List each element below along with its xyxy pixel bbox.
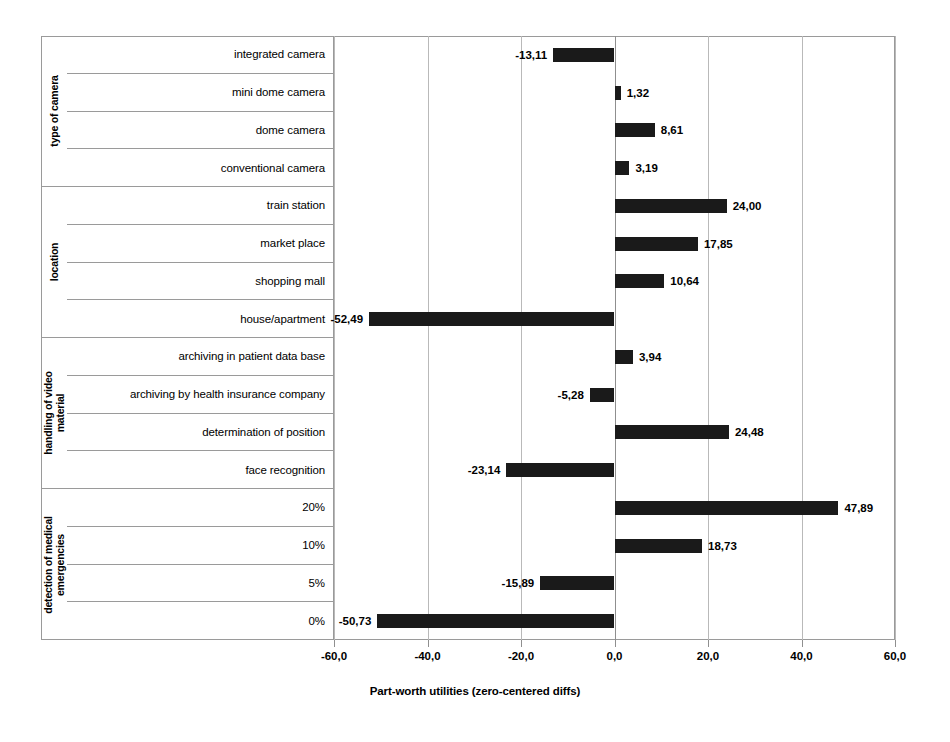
- category-level-list: integrated cameramini dome cameradome ca…: [67, 36, 333, 186]
- x-axis-tick: [428, 640, 429, 647]
- category-level-row: train station: [67, 187, 333, 225]
- category-group-title-line: material: [54, 371, 66, 455]
- category-level-list: train stationmarket placeshopping mallho…: [67, 187, 333, 337]
- bar: [615, 199, 727, 213]
- bar-value-label: -50,73: [339, 615, 372, 627]
- bar: [615, 350, 633, 364]
- bar: [615, 86, 621, 100]
- category-level-row: conventional camera: [67, 149, 333, 187]
- category-level-label: house/apartment: [240, 313, 325, 325]
- x-axis-title: Part-worth utilities (zero-centered diff…: [0, 685, 950, 697]
- category-group-title-line: emergencies: [54, 516, 66, 614]
- category-level-row: house/apartment: [67, 300, 333, 338]
- category-level-label: 20%: [302, 501, 325, 513]
- bar: [615, 161, 630, 175]
- bar-value-label: 8,61: [661, 124, 683, 136]
- bar-value-label: -5,28: [558, 389, 584, 401]
- bar: [506, 463, 614, 477]
- category-level-label: 5%: [309, 577, 325, 589]
- category-level-list: archiving in patient data basearchiving …: [67, 338, 333, 488]
- bar-row: 24,48: [334, 414, 895, 452]
- bar-value-label: -13,11: [515, 49, 547, 61]
- x-axis-tick-label: 40,0: [790, 650, 812, 662]
- bar: [615, 237, 698, 251]
- bar-row: 18,73: [334, 527, 895, 565]
- x-axis-tick-label: -60,0: [321, 650, 347, 662]
- bar-value-label: 18,73: [708, 540, 737, 552]
- bar-row: -50,73: [334, 602, 895, 640]
- bar: [615, 539, 703, 553]
- bar-value-label: -15,89: [502, 577, 535, 589]
- bar-row: 1,32: [334, 74, 895, 112]
- bar-row: -5,28: [334, 376, 895, 414]
- category-group-title: type of camera: [41, 36, 67, 186]
- bar-value-label: 17,85: [704, 238, 733, 250]
- category-level-row: 5%: [67, 565, 333, 603]
- category-group: locationtrain stationmarket placeshoppin…: [41, 187, 333, 338]
- bar-row: 3,19: [334, 149, 895, 187]
- category-group-title-line: handling of video: [42, 371, 54, 455]
- category-level-label: determination of position: [202, 426, 325, 438]
- category-group-title: detection of medicalemergencies: [41, 489, 67, 640]
- x-axis-tick-label: -20,0: [508, 650, 534, 662]
- category-level-label: 10%: [302, 539, 325, 551]
- bar-row: -23,14: [334, 451, 895, 489]
- category-group-title-line: location: [48, 243, 60, 282]
- bar-value-label: 3,19: [635, 162, 657, 174]
- category-level-row: 10%: [67, 527, 333, 565]
- bar-value-label: 47,89: [844, 502, 873, 514]
- bar: [540, 576, 614, 590]
- bar-row: 10,64: [334, 263, 895, 301]
- category-level-row: archiving by health insurance company: [67, 376, 333, 414]
- x-axis-tick: [521, 640, 522, 647]
- bar-value-label: 24,00: [733, 200, 762, 212]
- category-level-label: face recognition: [245, 464, 325, 476]
- bar-value-label: 3,94: [639, 351, 661, 363]
- category-level-label: archiving in patient data base: [178, 350, 325, 362]
- bar-row: -13,11: [334, 36, 895, 74]
- bar-value-label: -52,49: [331, 313, 364, 325]
- category-level-row: 0%: [67, 602, 333, 640]
- gridline: [895, 36, 896, 640]
- x-axis-tick: [615, 640, 616, 647]
- category-group: detection of medicalemergencies20%10%5%0…: [41, 489, 333, 640]
- category-level-row: face recognition: [67, 451, 333, 489]
- x-axis-tick-label: -40,0: [414, 650, 440, 662]
- category-level-row: shopping mall: [67, 263, 333, 301]
- category-level-label: shopping mall: [255, 275, 325, 287]
- category-level-row: archiving in patient data base: [67, 338, 333, 376]
- bar: [615, 501, 839, 515]
- category-level-label: mini dome camera: [232, 86, 325, 98]
- category-group: type of cameraintegrated cameramini dome…: [41, 36, 333, 187]
- category-level-label: conventional camera: [221, 162, 325, 174]
- category-group-title-line: type of camera: [48, 75, 60, 146]
- bar-row: 8,61: [334, 112, 895, 150]
- bar-value-label: -23,14: [468, 464, 501, 476]
- bar: [377, 614, 614, 628]
- bar: [553, 48, 614, 62]
- category-level-label: market place: [260, 237, 325, 249]
- bar: [369, 312, 614, 326]
- x-axis-tick: [708, 640, 709, 647]
- x-axis-tick-label: 60,0: [884, 650, 906, 662]
- category-level-label: archiving by health insurance company: [130, 388, 325, 400]
- bar: [615, 123, 655, 137]
- bar-row: 17,85: [334, 225, 895, 263]
- category-level-row: dome camera: [67, 112, 333, 150]
- category-level-label: train station: [267, 199, 325, 211]
- bar: [590, 388, 615, 402]
- bar: [615, 274, 665, 288]
- category-level-row: market place: [67, 225, 333, 263]
- category-level-row: determination of position: [67, 414, 333, 452]
- x-axis-tick-label: 0,0: [607, 650, 623, 662]
- part-worth-utilities-chart: type of cameraintegrated cameramini dome…: [0, 0, 950, 742]
- bar: [615, 425, 729, 439]
- bar-row: 47,89: [334, 489, 895, 527]
- bar-value-label: 1,32: [627, 87, 649, 99]
- bar-row: 24,00: [334, 187, 895, 225]
- category-level-row: mini dome camera: [67, 74, 333, 112]
- x-axis-tick: [802, 640, 803, 647]
- x-axis-tick: [895, 640, 896, 647]
- category-level-label: dome camera: [256, 124, 325, 136]
- category-level-list: 20%10%5%0%: [67, 489, 333, 640]
